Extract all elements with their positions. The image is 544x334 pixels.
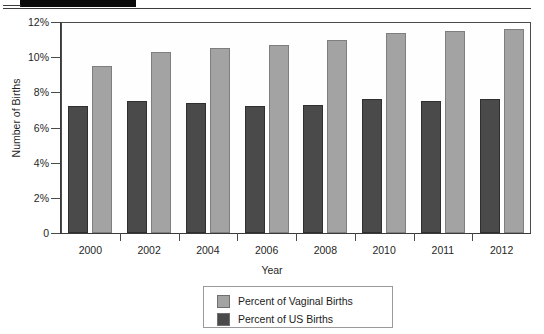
legend-label: Percent of Vaginal Births [238,295,353,307]
legend-item-us-births[interactable]: Percent of US Births [217,311,333,327]
y-tick-12% [51,22,60,23]
legend-label: Percent of US Births [238,313,333,325]
bar-2010-us-births [362,99,382,233]
bar-2010-vaginal-births [386,33,406,233]
chart-page: 02%4%6%8%10%12% Number of Births 2000200… [0,0,544,334]
header-rule [3,8,531,9]
x-tick-label-2000: 2000 [60,245,120,256]
x-tick [237,233,238,241]
y-tick-6% [51,128,60,129]
x-tick [179,233,180,241]
legend-swatch-icon [217,295,230,308]
y-tick-4% [51,163,60,164]
bar-2004-vaginal-births [210,48,230,233]
x-tick-label-2011: 2011 [413,245,473,256]
bars-container [61,22,531,233]
y-axis-labels: 02%4%6%8%10%12% [0,0,49,334]
bar-2012-us-births [480,99,500,233]
bar-2008-us-births [303,105,323,233]
y-tick-label: 2% [3,193,49,204]
bar-2000-us-births [68,106,88,233]
x-tick [120,233,121,241]
x-tick [472,233,473,241]
bar-2006-vaginal-births [269,45,289,233]
legend-swatch-icon [217,313,230,326]
y-tick-label: 0 [3,228,49,239]
bar-2002-vaginal-births [151,52,171,233]
y-tick-0 [51,233,60,234]
x-tick [296,233,297,241]
y-axis-title: Number of Births [10,58,22,178]
bar-2008-vaginal-births [327,40,347,233]
x-tick-label-2008: 2008 [295,245,355,256]
y-tick-10% [51,57,60,58]
x-tick [414,233,415,241]
legend-item-vaginal-births[interactable]: Percent of Vaginal Births [217,293,353,309]
chart-legend: Percent of Vaginal BirthsPercent of US B… [203,286,393,328]
x-tick [355,233,356,241]
bar-2006-us-births [245,106,265,233]
bar-2004-us-births [186,103,206,233]
y-tick-8% [51,92,60,93]
x-tick-label-2012: 2012 [472,245,532,256]
x-tick-label-2004: 2004 [178,245,238,256]
y-tick-2% [51,198,60,199]
y-tick-label: 12% [3,17,49,28]
x-axis-title: Year [0,264,544,276]
bar-2000-vaginal-births [92,66,112,233]
x-tick-label-2006: 2006 [237,245,297,256]
x-tick-label-2002: 2002 [119,245,179,256]
bar-2012-vaginal-births [504,29,524,233]
x-tick-label-2010: 2010 [354,245,414,256]
bar-2002-us-births [127,101,147,233]
bar-2011-vaginal-births [445,31,465,233]
bar-2011-us-births [421,101,441,233]
